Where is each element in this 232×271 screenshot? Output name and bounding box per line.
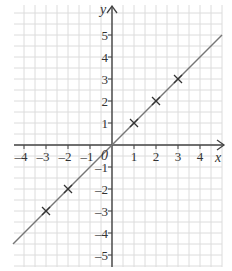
chart-svg: –4–3–2–1123454321–1–2–3–4–5 x y 0	[0, 0, 232, 271]
y-tick-label: –4	[94, 226, 109, 241]
y-tick-label: 1	[102, 116, 109, 131]
y-tick-label: 4	[102, 50, 109, 65]
x-tick-label: 3	[175, 149, 182, 164]
x-tick-label: 4	[197, 149, 204, 164]
x-tick-label: –1	[80, 149, 94, 164]
x-axis-label: x	[214, 150, 222, 165]
y-tick-label: 5	[102, 28, 109, 43]
x-tick-label: 2	[153, 149, 160, 164]
y-tick-label: –2	[94, 182, 108, 197]
x-tick-label: –2	[58, 149, 72, 164]
y-tick-label: 3	[102, 72, 109, 87]
origin-label: 0	[101, 148, 108, 163]
line-chart: –4–3–2–1123454321–1–2–3–4–5 x y 0	[0, 0, 232, 271]
x-tick-label: –3	[36, 149, 50, 164]
x-tick-label: 1	[131, 149, 138, 164]
y-tick-label: –5	[94, 248, 108, 263]
series	[13, 35, 222, 244]
y-tick-label: –3	[94, 204, 108, 219]
y-tick-label: 2	[102, 94, 109, 109]
grid	[14, 5, 222, 267]
x-tick-label: –4	[14, 149, 29, 164]
y-axis-label: y	[98, 2, 107, 17]
